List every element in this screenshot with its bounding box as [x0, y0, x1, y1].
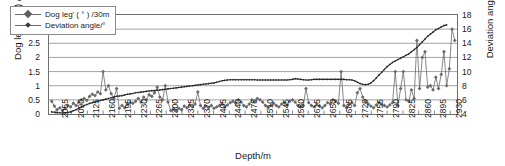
- axis-tick-label: 2580: [296, 99, 306, 118]
- legend-item-label: Deviation angle/°: [41, 21, 106, 30]
- x-axis-label: Depth/m: [48, 150, 458, 161]
- axis-tick-label: 2195: [123, 99, 133, 118]
- axis-tick-label: 2615: [312, 99, 322, 118]
- axis-tick-label: 2545: [281, 99, 291, 118]
- axis-tick-label: 12: [462, 52, 488, 62]
- axis-tick-label: 14: [462, 38, 488, 48]
- axis-tick-label: 2510: [265, 99, 275, 118]
- legend-item-label: Dog leg' ( ° ) /30m: [41, 10, 109, 19]
- axis-tick-label: 2650: [328, 99, 338, 118]
- axis-tick-label: 2930: [454, 99, 464, 118]
- axis-tick-label: 2825: [407, 99, 417, 118]
- legend-item-deviation-angle: Deviation angle/°: [15, 20, 109, 31]
- axis-tick-label: 2335: [186, 99, 196, 118]
- axis-tick-label: 2160: [107, 99, 117, 118]
- axis-tick-label: 2055: [60, 99, 70, 118]
- chart-container: Dog leg / ( ° ) /30m Deviation angle /° …: [0, 0, 505, 166]
- axis-tick-label: 2.5: [14, 38, 40, 48]
- axis-tick-label: 0: [14, 109, 40, 119]
- axis-tick-label: 10: [462, 67, 488, 77]
- axis-tick-label: 16: [462, 24, 488, 34]
- axis-tick-label: 4: [462, 109, 488, 119]
- axis-tick-label: 2: [14, 52, 40, 62]
- axis-tick-label: 2755: [375, 99, 385, 118]
- axis-tick-label: 2300: [170, 99, 180, 118]
- axis-tick-label: 2265: [154, 99, 164, 118]
- axis-tick-label: 1.5: [14, 67, 40, 77]
- axis-tick-label: 2230: [139, 99, 149, 118]
- axis-tick-label: 2405: [218, 99, 228, 118]
- axis-tick-label: 8: [462, 81, 488, 91]
- axis-tick-label: 0.5: [14, 95, 40, 105]
- axis-tick-label: 2860: [423, 99, 433, 118]
- dog-leg-series-icon: [15, 9, 41, 20]
- deviation-angle-series-icon: [15, 20, 41, 31]
- axis-tick-label: 2125: [91, 99, 101, 118]
- axis-tick-label: 2440: [233, 99, 243, 118]
- axis-tick-label: 2370: [202, 99, 212, 118]
- legend-item-dog-leg: Dog leg' ( ° ) /30m: [15, 9, 109, 20]
- axis-tick-label: 1: [14, 81, 40, 91]
- axis-tick-label: 18: [462, 10, 488, 20]
- axis-tick-label: 6: [462, 95, 488, 105]
- axis-tick-label: 2790: [391, 99, 401, 118]
- chart-legend: Dog leg' ( ° ) /30m Deviation angle/°: [10, 6, 116, 35]
- axis-tick-label: 2895: [438, 99, 448, 118]
- axis-tick-label: 2090: [76, 99, 86, 118]
- axis-tick-label: 2475: [249, 99, 259, 118]
- axis-tick-label: 2720: [360, 99, 370, 118]
- y-axis-ticks-right: 1816141210864: [462, 0, 488, 166]
- axis-tick-label: 2685: [344, 99, 354, 118]
